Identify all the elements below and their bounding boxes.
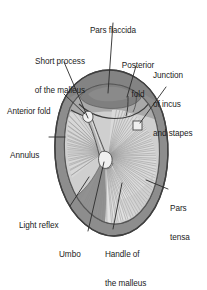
label-junction-of-incus-and-stapes: Junction of incus and stapes [153, 52, 207, 158]
label-annulus: Annulus [10, 132, 54, 180]
label-anterior-fold: Anterior fold [7, 88, 69, 136]
label-handle-of-the-malleus: Handle of the malleus [105, 231, 165, 290]
label-pars-tensa: Pars tensa [170, 185, 204, 262]
label-umbo: Umbo [59, 231, 93, 279]
umbo-marker [99, 151, 113, 168]
